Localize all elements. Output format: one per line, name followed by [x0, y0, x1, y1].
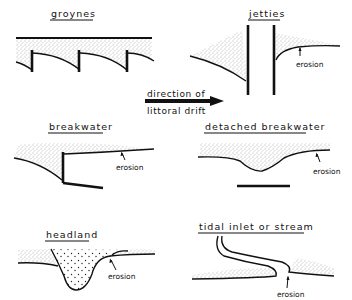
panel-title-detached-breakwater: detached breakwater: [205, 121, 326, 132]
arrowhead-icon: [121, 152, 124, 157]
panel-title-breakwater: breakwater: [49, 121, 113, 132]
arrowhead-icon: [316, 153, 319, 158]
arrow-label-line2: littoral drift: [147, 106, 206, 116]
panel-title-tidal-inlet: tidal inlet or stream: [199, 221, 314, 232]
panel-detached-breakwater: detached breakwater erosion: [198, 121, 341, 186]
sand-fill: [16, 38, 152, 70]
sand-fill-updrift: [190, 30, 247, 80]
arrowhead-icon: [287, 276, 290, 281]
panel-headland: headland erosion: [18, 229, 155, 290]
panel-tidal-inlet: tidal inlet or stream erosion: [192, 221, 334, 299]
erosion-label: erosion: [108, 272, 136, 281]
erosion-label: erosion: [296, 60, 324, 69]
panel-title-groynes: groynes: [51, 8, 96, 19]
panel-title-jetties: jetties: [248, 8, 285, 19]
panel-jetties: jetties erosion: [190, 8, 340, 95]
panel-groynes: groynes: [16, 8, 154, 72]
coastal-structures-diagram: groynes jetties erosion direction of lit…: [0, 0, 352, 300]
arrow-right-icon: [210, 96, 224, 106]
panel-breakwater: breakwater erosion: [14, 121, 154, 188]
erosion-label: erosion: [277, 290, 305, 299]
sand-fill: [14, 143, 154, 179]
erosion-label: erosion: [313, 167, 341, 176]
littoral-drift-arrow: direction of littoral drift: [145, 89, 224, 116]
erosion-label: erosion: [116, 163, 144, 172]
arrow-label-line1: direction of: [147, 89, 205, 99]
panel-title-headland: headland: [46, 229, 98, 240]
breakwater-arm-horizontal: [63, 183, 103, 188]
